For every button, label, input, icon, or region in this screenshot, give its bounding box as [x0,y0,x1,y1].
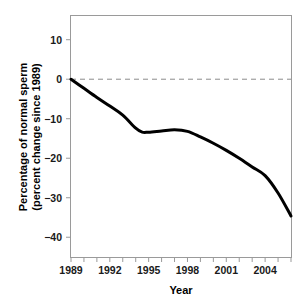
y-axis-tick-label: 10 [50,34,62,46]
x-axis-tick-labels: 198919921995199820012004 [59,264,277,276]
y-axis-title: Percentage of normal sperm (percent chan… [17,63,42,212]
y-axis-tick-label: −20 [44,152,62,164]
x-axis-tick-label: 1992 [98,264,122,276]
x-axis-tick-label: 1995 [137,264,161,276]
x-axis-tick-label: 1998 [176,264,200,276]
y-axis-tick-label: −10 [44,113,62,125]
x-axis-title: Year [169,284,193,296]
y-axis-tick-label: −40 [44,231,62,243]
x-axis-tick-label: 2004 [253,264,277,276]
x-axis-tick-label: 2001 [215,264,239,276]
y-axis-tick-labels: 100−10−20−30−40 [44,34,62,244]
x-axis-tick-label: 1989 [59,264,83,276]
chart-figure: 100−10−20−30−40 198919921995199820012004… [0,0,308,307]
plot-frame [71,16,292,258]
y-axis-title-line2: (percent change since 1989) [30,63,42,211]
line-chart: 100−10−20−30−40 198919921995199820012004… [0,0,308,307]
y-axis-title-line1: Percentage of normal sperm [17,63,29,212]
y-axis-tick-label: −30 [44,192,62,204]
y-axis-tick-label: 0 [56,73,62,85]
